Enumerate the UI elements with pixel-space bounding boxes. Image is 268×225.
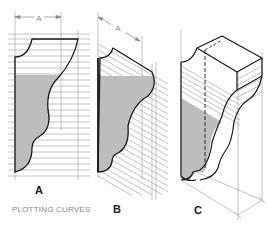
- panel-a-shaded-region: [14, 75, 74, 175]
- panel-c: [181, 30, 265, 220]
- panel-c-label: C: [194, 204, 202, 216]
- panel-b: A: [97, 12, 168, 200]
- panel-c-top-face: [197, 36, 262, 72]
- panel-a-label: A: [35, 184, 43, 196]
- figure-caption: PLOTTING CURVES: [12, 205, 90, 214]
- panel-b-shaded-region: [97, 76, 157, 176]
- panel-a-dimension-label: A: [36, 14, 42, 23]
- panel-b-label: B: [113, 203, 121, 215]
- panel-c-shaded-face: [181, 98, 222, 180]
- panel-a: A: [8, 12, 90, 180]
- panel-b-dimension-label: A: [115, 24, 121, 33]
